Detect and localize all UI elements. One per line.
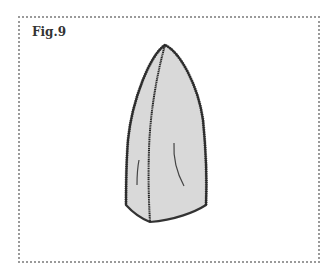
tooth-illustration — [0, 0, 334, 271]
tooth-outline — [126, 45, 206, 222]
